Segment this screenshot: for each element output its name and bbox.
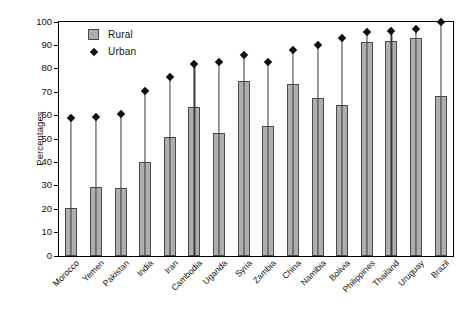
filled-diamond-icon: [88, 46, 99, 57]
urban-marker-slot: [305, 22, 330, 256]
legend-label-rural: Rural: [108, 29, 133, 40]
legend-item-urban: Urban: [88, 43, 136, 60]
marker-urban-cambodia: [190, 60, 199, 69]
urban-marker-slot: [281, 22, 306, 256]
y-tick-label: 10: [41, 226, 52, 237]
y-tick-label: 60: [41, 109, 52, 120]
urban-marker-slot: [133, 22, 158, 256]
urban-marker-slot: [59, 22, 84, 256]
marker-urban-brazil: [436, 17, 445, 26]
urban-marker-slot: [158, 22, 183, 256]
stem-line: [440, 22, 441, 256]
stem-line: [219, 62, 220, 256]
marker-urban-morocco: [67, 113, 76, 122]
marker-urban-thailand: [387, 27, 396, 36]
chart-legend: Rural Urban: [88, 26, 136, 60]
stem-line: [366, 33, 367, 256]
marker-urban-syria: [239, 50, 248, 59]
y-tick-label: 40: [41, 156, 52, 167]
marker-urban-namibia: [313, 41, 322, 50]
stem-line: [416, 29, 417, 256]
marker-urban-china: [288, 46, 297, 55]
urban-marker-slot: [379, 22, 404, 256]
urban-marker-slot: [182, 22, 207, 256]
legend-label-urban: Urban: [108, 46, 136, 57]
stem-line: [342, 38, 343, 256]
marker-urban-bolivia: [338, 34, 347, 43]
legend-item-rural: Rural: [88, 26, 136, 43]
y-tick-label: 80: [41, 62, 52, 73]
urban-marker-slot: [231, 22, 256, 256]
stem-line: [145, 91, 146, 256]
marker-urban-iran: [165, 72, 174, 81]
marker-urban-zambia: [264, 57, 273, 66]
stem-line: [120, 114, 121, 256]
urban-marker-slot: [330, 22, 355, 256]
marker-urban-yemen: [91, 112, 100, 121]
stem-line: [71, 118, 72, 256]
stem-line: [268, 62, 269, 256]
urban-marker-slot: [256, 22, 281, 256]
y-tick-label: 90: [41, 39, 52, 50]
y-tick-label: 0: [47, 250, 52, 261]
chart-figure: Percentages 0102030405060708090100 Moroc…: [0, 0, 470, 316]
marker-urban-uruguay: [412, 24, 421, 33]
urban-marker-slot: [404, 22, 429, 256]
stem-line: [317, 45, 318, 256]
stem-line: [391, 31, 392, 256]
urban-marker-slot: [207, 22, 232, 256]
stem-line: [292, 50, 293, 256]
filled-square-icon: [88, 29, 99, 40]
y-tick-label: 70: [41, 86, 52, 97]
y-tick-label: 50: [41, 133, 52, 144]
y-tick-label: 100: [36, 16, 52, 27]
y-tick-label: 20: [41, 203, 52, 214]
stem-line: [194, 64, 195, 256]
marker-urban-philippines: [362, 28, 371, 37]
stem-line: [243, 55, 244, 256]
y-tick-label: 30: [41, 179, 52, 190]
urban-marker-slot: [428, 22, 453, 256]
marker-urban-uganda: [215, 57, 224, 66]
stem-line: [169, 77, 170, 256]
urban-marker-slot: [355, 22, 380, 256]
marker-urban-pakistan: [116, 110, 125, 119]
marker-urban-india: [141, 87, 150, 96]
